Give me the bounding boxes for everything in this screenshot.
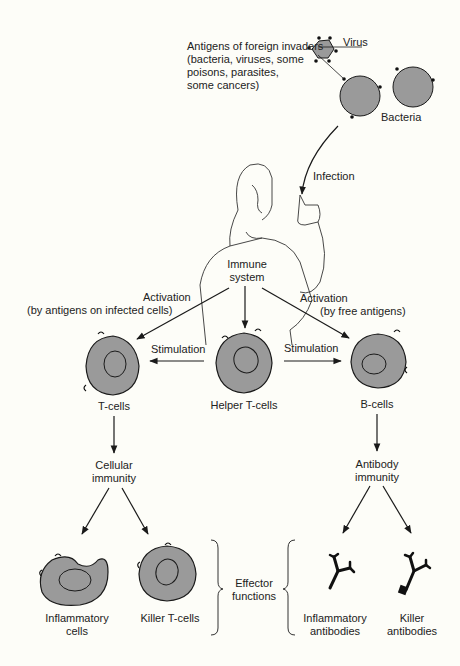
antibody-immunity-label: Antibody immunity (347, 458, 407, 484)
immune-system-label: Immune system (222, 258, 272, 284)
immune-system-diagram: Antigens of foreign invaders (bacteria, … (0, 0, 460, 666)
stimulation-right-label: Stimulation (284, 342, 338, 355)
killer-antibodies-label: Killer antibodies (382, 612, 442, 638)
virus-label: Virus (343, 36, 368, 49)
stimulation-left-label: Stimulation (151, 343, 205, 356)
antigens-label: Antigens of foreign invaders (bacteria, … (187, 40, 323, 92)
inflammatory-cells-label: Inflammatory cells (40, 612, 114, 638)
effector-functions-label: Effector functions (227, 577, 281, 603)
helper-t-cells-label: Helper T-cells (204, 399, 284, 412)
activation-right-label: Activation (by free antigens) (300, 292, 406, 318)
b-cells-label: B-cells (347, 398, 407, 411)
inflammatory-antibodies-label: Inflammatory antibodies (300, 612, 370, 638)
activation-left-label: Activation (by antigens on infected cell… (27, 291, 191, 317)
leader-lines (0, 0, 460, 666)
killer-t-cells-label: Killer T-cells (136, 612, 204, 625)
cellular-immunity-label: Cellular immunity (84, 459, 144, 485)
bacteria-label: Bacteria (381, 111, 421, 124)
infection-label: Infection (313, 170, 355, 183)
t-cells-label: T-cells (84, 400, 144, 413)
